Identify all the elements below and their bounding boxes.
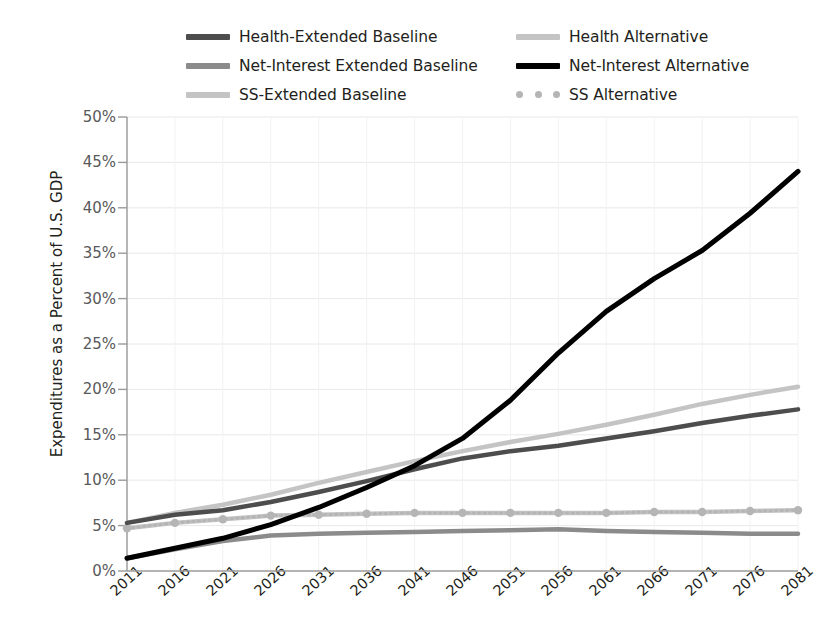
series-marker [267, 511, 275, 519]
series-marker [362, 510, 370, 518]
series-marker [698, 508, 706, 516]
plot-area [0, 0, 838, 643]
series-marker [410, 509, 418, 517]
series-marker [219, 515, 227, 523]
series-marker [650, 508, 658, 516]
series-marker [554, 509, 562, 517]
series-marker [602, 509, 610, 517]
series-marker [746, 507, 754, 515]
series-marker [458, 509, 466, 517]
series-marker [315, 511, 323, 519]
series-marker [794, 506, 802, 514]
series-marker [171, 519, 179, 527]
series-marker [506, 509, 514, 517]
series-marker [123, 524, 131, 532]
chart-container: Health-Extended Baseline Health Alternat… [0, 0, 838, 643]
